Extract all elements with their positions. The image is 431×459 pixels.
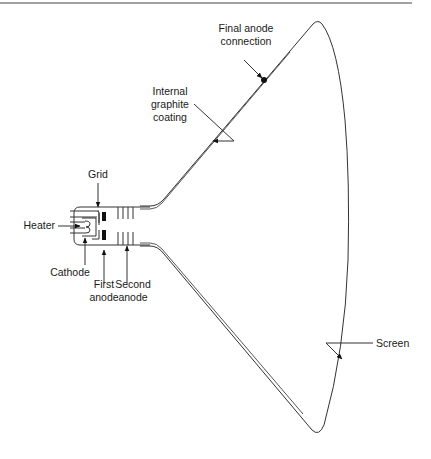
label-first-anode-2: anode (89, 291, 118, 303)
label-grid: Grid (88, 168, 108, 180)
label-graphite-2: graphite (151, 98, 189, 110)
first-anode-bottom (102, 230, 106, 240)
label-final-anode-2: connection (221, 35, 272, 47)
label-second-anode-1: Second (115, 278, 151, 290)
heater-coil (85, 221, 90, 233)
first-anode-top (102, 212, 106, 221)
leader-lines (58, 60, 373, 359)
label-second-anode-2: anode (118, 291, 147, 303)
label-graphite-1: Internal (152, 85, 187, 97)
crt-diagram: Final anode connection Internal graphite… (0, 0, 431, 459)
tube-envelope (74, 22, 349, 433)
graphite-leader (194, 104, 234, 141)
label-first-anode-1: First (94, 278, 114, 290)
second-anode (118, 207, 133, 245)
label-final-anode-1: Final anode (219, 22, 274, 34)
final-anode-arrow (244, 60, 262, 78)
label-graphite-3: coating (153, 111, 187, 123)
label-screen: Screen (376, 337, 409, 349)
label-cathode: Cathode (50, 266, 90, 278)
label-heater: Heater (23, 219, 55, 231)
labels: Final anode connection Internal graphite… (23, 22, 409, 349)
